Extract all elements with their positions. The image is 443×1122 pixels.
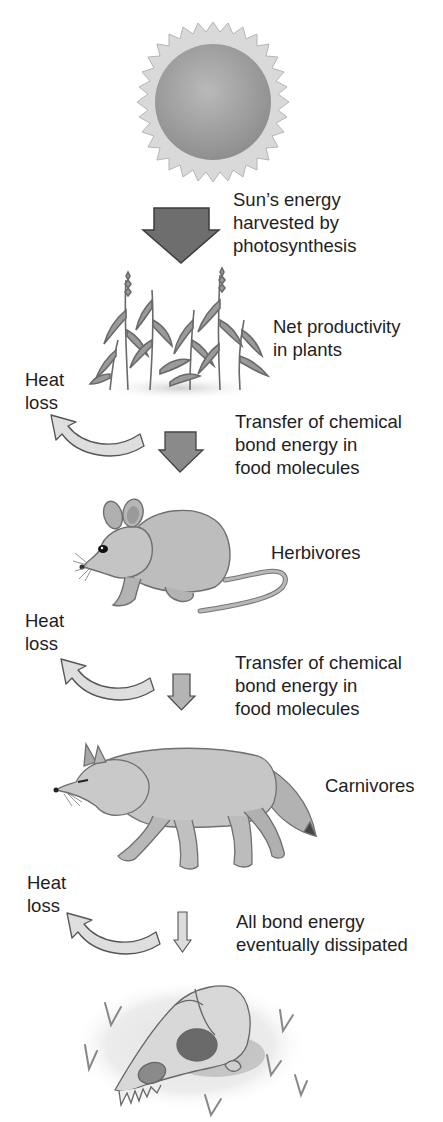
transfer-label-herbivores-to-carnivores: Transfer of chemical bond energy in food… [235,651,402,720]
heat-loss-label-2: Heat loss [25,609,64,655]
stage-label-producers: Net productivity in plants [273,315,401,361]
small-down-arrow-icon [167,672,197,712]
stage-label-herbivores: Herbivores [271,541,360,564]
heat-loss-arrow-icon [58,656,178,716]
heat-loss-arrow-icon [48,412,168,472]
transfer-label-dissipated: All bond energy eventually dissipated [236,910,408,956]
transfer-label-photosynthesis: Sun’s energy harvested by photosynthesis [233,188,356,257]
skull-icon [75,965,315,1115]
stage-label-carnivores: Carnivores [325,774,414,797]
heat-loss-label-1: Heat loss [25,368,64,414]
medium-down-arrow-icon [158,430,204,474]
large-down-arrow-icon [142,206,222,266]
transfer-label-producers-to-herbivores: Transfer of chemical bond energy in food… [235,410,402,479]
heat-loss-arrow-icon [64,910,184,970]
plants-icon [90,270,270,400]
heat-loss-label-3: Heat loss [27,871,66,917]
thin-down-arrow-icon [173,910,193,954]
fox-icon [48,732,328,882]
sun-icon [133,22,293,182]
